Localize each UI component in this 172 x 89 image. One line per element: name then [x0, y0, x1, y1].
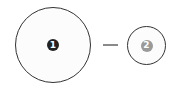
connector-dash	[103, 44, 118, 46]
number-badge-1: 1	[47, 39, 59, 51]
large-circle-node-1: 1	[15, 7, 91, 83]
small-circle-node-2: 2	[127, 26, 166, 65]
number-badge-2: 2	[141, 40, 153, 52]
